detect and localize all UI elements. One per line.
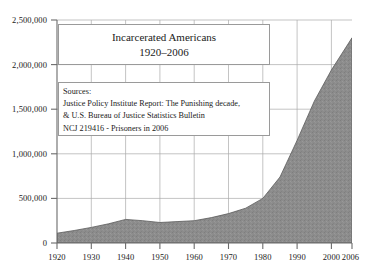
xtick-label-2006: 2006 <box>334 252 367 262</box>
ytick-label-1000000: 1,000,000 <box>0 149 47 159</box>
chart-screenshot: 2,500,000 2,000,000 1,500,000 1,000,000 … <box>0 0 367 275</box>
x-axis-ticks <box>57 243 352 249</box>
sources-box: Sources: Justice Policy Institute Report… <box>58 82 270 136</box>
chart-title-line-2: 1920–2006 <box>139 45 189 60</box>
sources-line-4: NCJ 219416 - Prisoners in 2006 <box>63 123 269 135</box>
ytick-label-500000: 500,000 <box>0 193 47 203</box>
y-axis-ticks <box>51 20 57 243</box>
ytick-label-1500000: 1,500,000 <box>0 104 47 114</box>
ytick-label-2500000: 2,500,000 <box>0 15 47 25</box>
chart-title-line-1: Incarcerated Americans <box>112 30 216 45</box>
ytick-label-0: 0 <box>0 238 47 248</box>
sources-line-2: Justice Policy Institute Report: The Pun… <box>63 98 269 110</box>
sources-line-3: & U.S. Bureau of Justice Statistics Bull… <box>63 110 269 122</box>
sources-line-1: Sources: <box>63 86 269 98</box>
chart-title-box: Incarcerated Americans 1920–2006 <box>58 24 270 65</box>
ytick-label-2000000: 2,000,000 <box>0 60 47 70</box>
